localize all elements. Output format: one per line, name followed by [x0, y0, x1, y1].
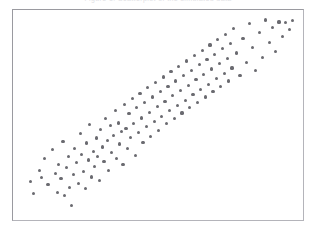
data-point: [141, 141, 144, 144]
data-point: [137, 131, 140, 134]
data-point: [114, 109, 117, 112]
data-point: [241, 37, 244, 40]
data-point: [85, 141, 88, 144]
data-point: [159, 90, 162, 93]
data-point: [77, 182, 80, 185]
data-point: [215, 77, 218, 80]
data-point: [143, 101, 146, 104]
data-point: [177, 65, 180, 68]
data-point: [288, 28, 291, 31]
data-point: [140, 116, 143, 119]
data-point: [205, 58, 208, 61]
data-point: [124, 127, 127, 130]
data-point: [188, 106, 191, 109]
data-point: [218, 62, 221, 65]
data-point: [127, 112, 130, 115]
scatter-plot-figure: Figure 1: Scatterplot of the simulated d…: [0, 0, 316, 233]
data-point: [207, 83, 210, 86]
data-point: [168, 109, 171, 112]
data-point: [72, 173, 75, 176]
data-point: [102, 160, 105, 163]
data-point: [165, 122, 168, 125]
data-point: [93, 165, 96, 168]
data-point: [67, 155, 70, 158]
data-point: [174, 79, 177, 82]
data-point: [135, 106, 138, 109]
data-point: [96, 155, 99, 158]
data-point: [185, 59, 188, 62]
data-point: [59, 177, 62, 180]
data-point: [43, 157, 46, 160]
data-point: [202, 73, 205, 76]
data-point: [264, 18, 267, 21]
data-point: [149, 135, 152, 138]
data-point: [61, 140, 64, 143]
data-point: [160, 115, 163, 118]
data-point: [173, 117, 176, 120]
data-point: [163, 100, 166, 103]
data-point: [274, 50, 277, 53]
data-point: [151, 95, 154, 98]
data-point: [281, 35, 284, 38]
caption-remnant-text: Figure 1: Scatterplot of the simulated d…: [84, 0, 231, 2]
data-point: [118, 142, 121, 145]
data-point: [120, 130, 123, 133]
data-point: [198, 63, 201, 66]
data-point: [157, 129, 160, 132]
data-point: [277, 20, 280, 23]
data-point: [223, 72, 226, 75]
data-point: [226, 57, 229, 60]
data-point: [148, 111, 151, 114]
data-point: [210, 67, 213, 70]
data-point: [56, 191, 59, 194]
data-point: [146, 86, 149, 89]
data-point: [232, 27, 235, 30]
data-point: [182, 74, 185, 77]
data-point: [107, 169, 110, 172]
data-point: [187, 84, 190, 87]
data-point: [129, 136, 132, 139]
data-point: [104, 117, 107, 120]
data-point: [230, 66, 233, 69]
plot-frame: [12, 9, 304, 221]
data-point: [145, 125, 148, 128]
data-point: [245, 61, 248, 64]
data-point: [180, 111, 183, 114]
data-point: [184, 99, 187, 102]
data-point: [117, 121, 120, 124]
data-point: [92, 150, 95, 153]
data-point: [70, 204, 73, 207]
data-point: [196, 101, 199, 104]
data-point: [79, 132, 82, 135]
data-point: [138, 92, 141, 95]
data-point: [57, 163, 60, 166]
data-point: [90, 175, 93, 178]
data-point: [208, 43, 211, 46]
data-point: [271, 26, 274, 29]
data-point: [211, 90, 214, 93]
data-point: [88, 123, 91, 126]
data-point: [204, 95, 207, 98]
data-point: [121, 163, 124, 166]
data-point: [169, 70, 172, 73]
cropped-caption-remnant: Figure 1: Scatterplot of the simulated d…: [0, 0, 316, 7]
data-point: [115, 157, 118, 160]
data-point: [112, 134, 115, 137]
data-point: [258, 31, 261, 34]
data-point: [110, 151, 113, 154]
data-point: [199, 88, 202, 91]
data-point: [134, 154, 137, 157]
data-point: [284, 21, 287, 24]
data-point: [201, 49, 204, 52]
data-point: [106, 139, 109, 142]
data-point: [63, 194, 66, 197]
data-point: [84, 187, 87, 190]
data-point: [224, 33, 227, 36]
data-point: [40, 176, 43, 179]
data-point: [156, 105, 159, 108]
data-point: [80, 153, 83, 156]
data-point: [229, 42, 232, 45]
data-point: [87, 158, 90, 161]
data-point: [176, 104, 179, 107]
data-point: [235, 51, 238, 54]
